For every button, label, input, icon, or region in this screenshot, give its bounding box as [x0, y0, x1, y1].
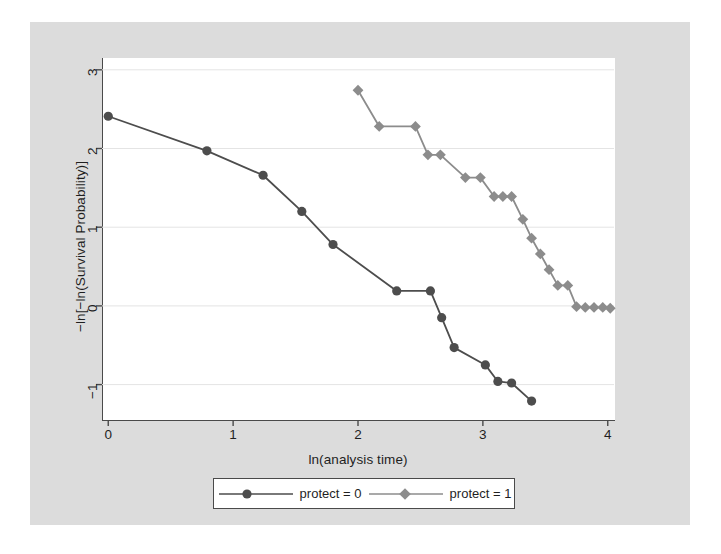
data-point-marker	[562, 280, 573, 291]
data-point-marker	[423, 149, 434, 160]
data-point-marker	[506, 191, 517, 202]
data-series-group	[104, 85, 616, 406]
data-point-marker	[328, 240, 337, 249]
y-axis-label: −ln[−ln(Survival Probability)]	[73, 47, 88, 447]
stata-loglog-survival-figure: 01234 −10123 ln(analysis time) −ln[−ln(S…	[0, 0, 721, 554]
data-point-marker	[493, 377, 502, 386]
data-point-marker	[544, 264, 555, 275]
legend-swatch-diamond	[367, 486, 445, 502]
series-0	[104, 112, 537, 406]
x-tick-label: 1	[213, 427, 253, 442]
x-tick-label: 0	[88, 427, 128, 442]
series-1	[353, 85, 616, 314]
data-point-marker	[605, 303, 616, 314]
legend-swatch-circle	[217, 486, 295, 502]
data-point-marker	[392, 286, 401, 295]
data-point-marker	[353, 85, 364, 96]
data-point-marker	[526, 233, 537, 244]
data-point-marker	[104, 112, 113, 121]
data-point-marker	[571, 301, 582, 312]
data-point-marker	[258, 171, 267, 180]
data-point-marker	[374, 121, 385, 132]
x-tick-label: 3	[463, 427, 503, 442]
legend-entry-protect-1[interactable]: protect = 1	[367, 486, 512, 502]
data-point-marker	[297, 207, 306, 216]
data-point-marker	[507, 378, 516, 387]
data-point-marker	[426, 286, 435, 295]
data-point-marker	[517, 214, 528, 225]
legend-label-protect-0: protect = 0	[300, 486, 362, 501]
data-point-marker	[450, 343, 459, 352]
data-point-marker	[535, 249, 546, 260]
gridlines-group	[102, 70, 614, 385]
plot-canvas	[0, 0, 721, 554]
x-tick-label: 2	[338, 427, 378, 442]
legend-label-protect-1: protect = 1	[450, 486, 512, 501]
data-point-marker	[481, 360, 490, 369]
data-point-marker	[552, 280, 563, 291]
x-tick-label: 4	[588, 427, 628, 442]
chart-legend: protect = 0 protect = 1	[213, 478, 515, 509]
legend-entry-protect-0[interactable]: protect = 0	[217, 486, 362, 502]
x-axis-label: ln(analysis time)	[102, 452, 614, 467]
data-point-marker	[527, 397, 536, 406]
data-point-marker	[202, 146, 211, 155]
x-axis-ticks-group	[108, 420, 608, 426]
data-point-marker	[410, 121, 421, 132]
data-point-marker	[437, 313, 446, 322]
